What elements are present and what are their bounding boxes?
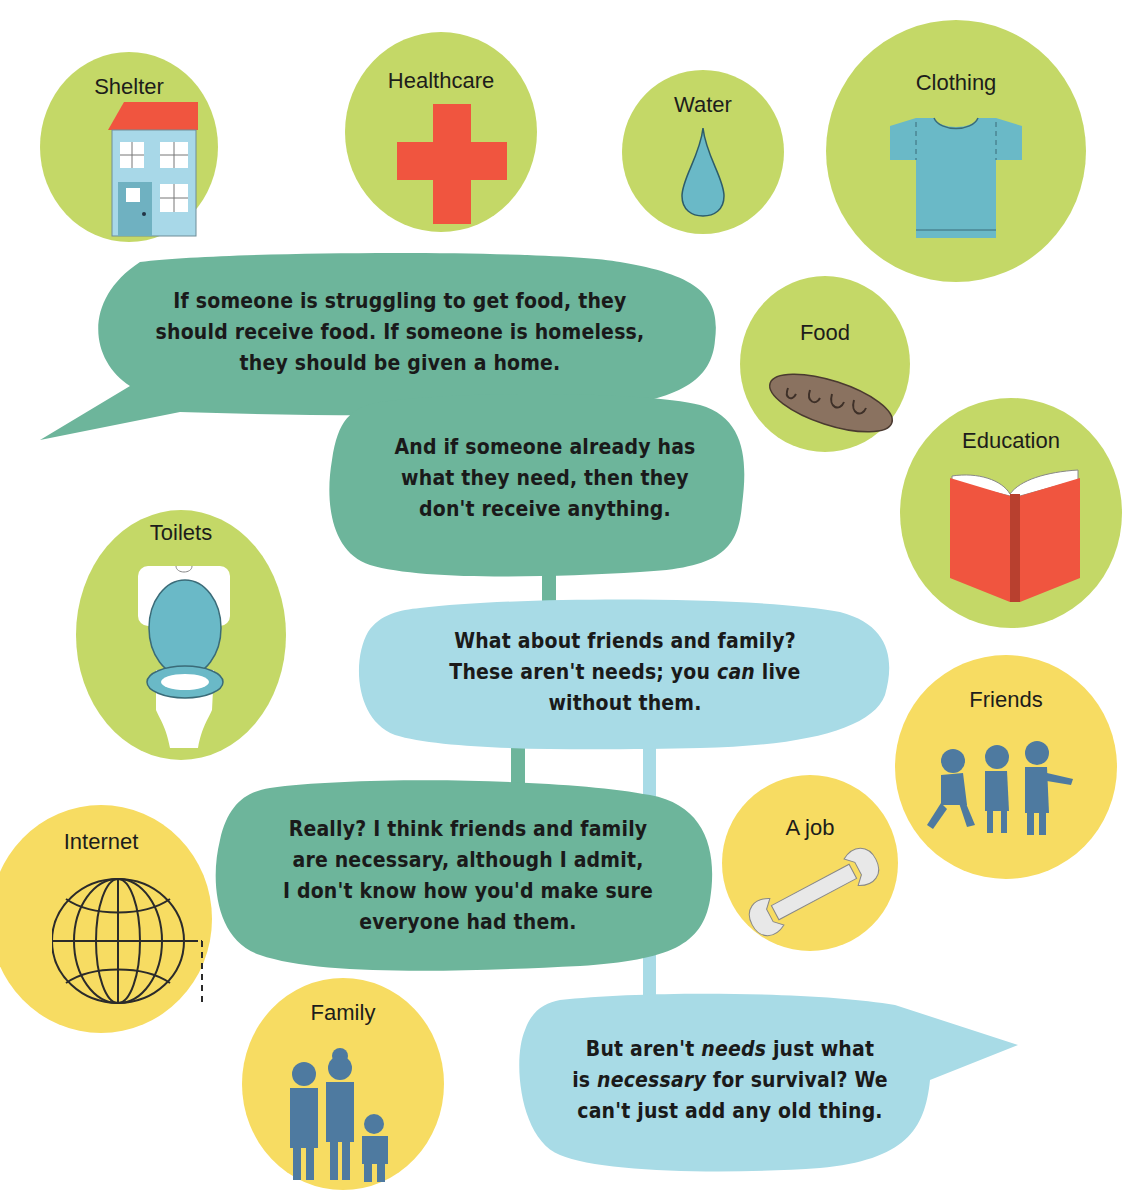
bubble-3-text: These aren't needs; you [449, 660, 717, 684]
speech-bubble-1: If someone is struggling to get food, th… [90, 286, 710, 379]
bubble-3-line: without them. [380, 688, 870, 719]
bubble-2-line: don't receive anything. [350, 494, 740, 525]
bubble-5-text: for survival? We [706, 1068, 888, 1092]
bubble-5-emphasis: necessary [597, 1068, 706, 1092]
bubble-1-line: should receive food. If someone is homel… [90, 317, 710, 348]
bubble-5-text: is [572, 1068, 597, 1092]
speech-bubble-5: But aren't needs just what is necessary … [530, 1034, 930, 1127]
bubble-5-text: just what [766, 1037, 874, 1061]
bubble-5-line: But aren't needs just what [530, 1034, 930, 1065]
speech-bubble-3: What about friends and family? These are… [380, 626, 870, 719]
bubble-3-line: These aren't needs; you can live [380, 657, 870, 688]
bubble-2-line: what they need, then they [350, 463, 740, 494]
bubble-1-line: they should be given a home. [90, 348, 710, 379]
bubble-3-text: live [755, 660, 801, 684]
bubble-5-line: can't just add any old thing. [530, 1096, 930, 1127]
bubble-5-emphasis: needs [701, 1037, 766, 1061]
speech-bubbles-layer [0, 0, 1122, 1190]
bubble-5-text: But aren't [586, 1037, 701, 1061]
illustration-scene: If someone is struggling to get food, th… [0, 0, 1122, 1190]
bubble-4-line: everyone had them. [228, 907, 708, 938]
speech-bubble-4: Really? I think friends and family are n… [228, 814, 708, 938]
bubble-2-line: And if someone already has [350, 432, 740, 463]
speech-bubble-2: And if someone already has what they nee… [350, 432, 740, 525]
bubble-3-emphasis: can [717, 660, 755, 684]
bubble-1-line: If someone is struggling to get food, th… [90, 286, 710, 317]
bubble-5-line: is necessary for survival? We [530, 1065, 930, 1096]
bubble-4-line: Really? I think friends and family [228, 814, 708, 845]
bubble-3-line: What about friends and family? [380, 626, 870, 657]
bubble-4-line: are necessary, although I admit, [228, 845, 708, 876]
bubble-4-line: I don't know how you'd make sure [228, 876, 708, 907]
